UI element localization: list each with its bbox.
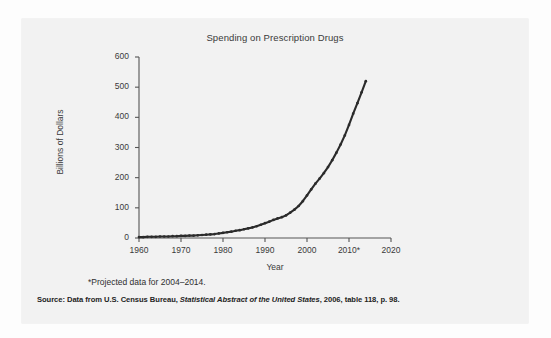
data-point	[171, 235, 174, 238]
data-point	[335, 151, 338, 154]
data-point	[154, 235, 157, 238]
data-point	[142, 236, 145, 239]
x-axis-tick-label: 1960	[119, 245, 159, 255]
data-point	[251, 226, 254, 229]
data-point	[217, 232, 220, 235]
y-axis-tick-label: 600	[95, 51, 129, 61]
x-axis-tick-label: 2020	[371, 245, 411, 255]
data-point	[356, 102, 359, 105]
data-point	[310, 188, 313, 191]
data-point	[138, 236, 141, 239]
y-axis-tick-label: 400	[95, 111, 129, 121]
data-point	[306, 194, 309, 197]
data-point	[230, 230, 233, 233]
data-point	[268, 220, 271, 223]
data-point	[238, 229, 241, 232]
data-point	[222, 232, 225, 235]
data-point	[259, 223, 262, 226]
data-point	[163, 235, 166, 238]
data-point	[364, 80, 367, 83]
data-point	[360, 91, 363, 94]
data-point	[150, 235, 153, 238]
data-point	[280, 216, 283, 219]
x-axis-ticks	[139, 238, 391, 242]
x-axis-tick-label: 2010*	[329, 245, 369, 255]
data-point	[180, 235, 183, 238]
data-point	[234, 229, 237, 232]
data-point	[184, 235, 187, 238]
data-point	[348, 124, 351, 127]
data-point	[209, 233, 212, 236]
data-point	[289, 211, 292, 214]
data-point	[314, 182, 317, 185]
data-point	[167, 235, 170, 238]
x-axis-tick-label: 1970	[161, 245, 201, 255]
data-point	[264, 222, 267, 225]
data-point	[331, 159, 334, 162]
data-point	[297, 205, 300, 208]
plot-area: Billions of Dollars 0100200300400500600 …	[22, 19, 528, 279]
x-axis-tick-label: 1980	[203, 245, 243, 255]
data-point	[339, 143, 342, 146]
x-axis-tick-label: 2000	[287, 245, 327, 255]
data-point	[243, 228, 246, 231]
data-point	[159, 235, 162, 238]
data-point	[352, 112, 355, 115]
y-axis-tick-label: 300	[95, 142, 129, 152]
data-point	[188, 234, 191, 237]
data-point	[343, 134, 346, 137]
y-axis-tick-label: 500	[95, 81, 129, 91]
chart-figure: Spending on Prescription Drugs Billions …	[22, 19, 528, 323]
chart-source: Source: Data from U.S. Census Bureau, St…	[37, 295, 527, 304]
data-point	[226, 231, 229, 234]
data-point	[318, 177, 321, 180]
data-point	[322, 172, 325, 175]
x-axis-label: Year	[22, 262, 528, 272]
data-point	[196, 234, 199, 237]
data-point	[205, 233, 208, 236]
y-axis-ticks	[135, 57, 139, 238]
source-suffix: , 2006, table 118, p. 98.	[320, 295, 400, 304]
page-background: Spending on Prescription Drugs Billions …	[0, 0, 551, 338]
data-point	[301, 200, 304, 203]
data-point	[276, 217, 279, 220]
y-axis-tick-label: 200	[95, 172, 129, 182]
source-title-italic: Statistical Abstract of the United State…	[180, 295, 320, 304]
x-axis-tick-label: 1990	[245, 245, 285, 255]
source-prefix: Source: Data from U.S. Census Bureau,	[37, 295, 180, 304]
data-point	[146, 235, 149, 238]
chart-footnote: *Projected data for 2004–2014.	[88, 277, 206, 287]
data-point	[247, 227, 250, 230]
data-point	[285, 214, 288, 217]
figure-card: Spending on Prescription Drugs Billions …	[22, 19, 528, 323]
axis-lines	[139, 57, 391, 238]
data-point	[175, 235, 178, 238]
data-point-markers	[138, 80, 368, 239]
data-point	[293, 208, 296, 211]
data-point	[213, 233, 216, 236]
data-point	[255, 225, 258, 228]
data-point	[272, 219, 275, 222]
data-point	[192, 234, 195, 237]
y-axis-tick-label: 0	[95, 232, 129, 242]
data-point	[201, 234, 204, 237]
data-point	[327, 166, 330, 169]
y-axis-tick-label: 100	[95, 202, 129, 212]
